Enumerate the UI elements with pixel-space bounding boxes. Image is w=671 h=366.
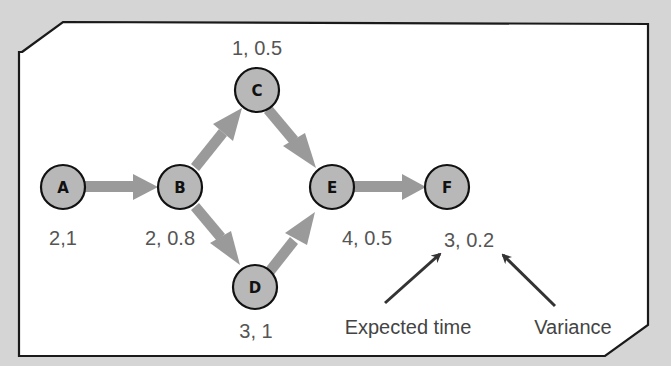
node-e-values: 4, 0.5	[342, 227, 392, 249]
node-b: B	[158, 165, 202, 209]
node-a: A	[41, 165, 85, 209]
node-a-letter: A	[57, 179, 69, 197]
expected-time-label: Expected time	[345, 316, 472, 338]
node-c-values: 1, 0.5	[232, 37, 282, 59]
node-b-values: 2, 0.8	[145, 227, 195, 249]
node-c: C	[235, 68, 279, 112]
node-d-values: 3, 1	[239, 320, 272, 342]
variance-label: Variance	[534, 316, 611, 338]
node-c-letter: C	[251, 82, 262, 100]
node-e-letter: E	[327, 179, 337, 197]
node-d-letter: D	[249, 279, 261, 297]
node-f-values: 3, 0.2	[444, 229, 494, 251]
node-a-values: 2,1	[49, 227, 77, 249]
node-f: F	[425, 165, 469, 209]
pert-network-svg: A B C D E F 2,1 2, 0.8 1, 0.5 3, 1 4, 0.…	[0, 0, 671, 366]
node-d: D	[233, 265, 277, 309]
diagram-canvas: A B C D E F 2,1 2, 0.8 1, 0.5 3, 1 4, 0.…	[0, 0, 671, 366]
node-f-letter: F	[442, 179, 452, 197]
node-b-letter: B	[174, 179, 185, 197]
node-e: E	[310, 165, 354, 209]
